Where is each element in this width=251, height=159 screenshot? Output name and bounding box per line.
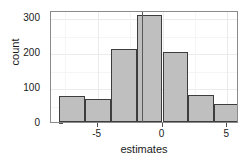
x-tick-mark (97, 123, 98, 127)
x-axis-title: estimates (50, 143, 238, 155)
histogram-bar (111, 49, 137, 122)
histogram-bar (163, 52, 189, 122)
plot-panel (50, 11, 238, 123)
reference-vertical-line (142, 12, 143, 122)
histogram-bar (85, 99, 111, 122)
x-tick-label: 0 (147, 129, 177, 139)
histogram-figure: count 0100200300 -505 estimates (0, 0, 251, 159)
histogram-bar (214, 104, 238, 122)
histogram-bar (137, 15, 163, 122)
x-tick-label: -5 (82, 129, 112, 139)
x-tick-mark (162, 123, 163, 127)
histogram-bar (59, 96, 85, 122)
x-tick-mark (226, 123, 227, 127)
histogram-bar (188, 95, 214, 122)
x-tick-label: 5 (211, 129, 241, 139)
